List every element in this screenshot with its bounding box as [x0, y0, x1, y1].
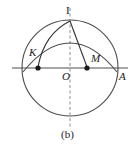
label-point-i: I: [66, 5, 70, 16]
label-point-o: O: [62, 71, 70, 82]
point-marker-M: [84, 65, 89, 70]
label-point-k: K: [29, 47, 36, 58]
figure-caption: (b): [0, 129, 135, 140]
segment-I-to-M: [70, 21, 87, 67]
label-point-a: A: [119, 71, 126, 82]
figure-container: I K M O A (b): [0, 0, 135, 152]
label-point-m: M: [91, 53, 100, 64]
point-marker-K: [35, 65, 40, 70]
